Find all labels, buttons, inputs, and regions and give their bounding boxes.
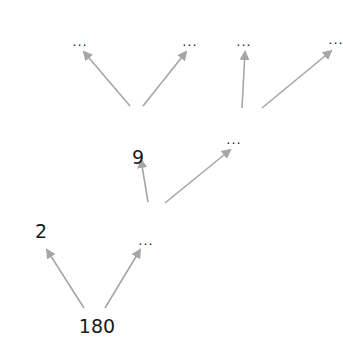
node-ellipsis-f: ... <box>328 33 343 46</box>
node-ellipsis-c: ... <box>72 35 87 48</box>
node-2: 2 <box>35 222 47 241</box>
node-ellipsis-e: ... <box>236 35 251 48</box>
arrow-icon <box>47 250 84 308</box>
arrow-icon <box>165 150 230 203</box>
node-ellipsis-d: ... <box>182 35 197 48</box>
node-ellipsis-b: ... <box>226 133 241 146</box>
arrow-icon <box>105 250 140 308</box>
arrow-icon <box>242 52 245 108</box>
node-180: 180 <box>79 317 115 336</box>
arrow-icon <box>84 52 130 106</box>
arrow-icon <box>143 52 186 106</box>
arrow-icon <box>262 51 331 108</box>
factor-tree-edges <box>0 0 343 337</box>
node-ellipsis-a: ... <box>138 234 153 247</box>
node-9: 9 <box>132 148 144 167</box>
